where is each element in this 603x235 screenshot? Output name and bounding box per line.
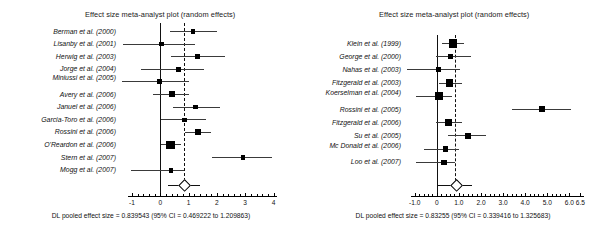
x-axis-minor-tick bbox=[441, 194, 442, 196]
study-label: Avery et al. (2006) bbox=[4, 91, 116, 99]
x-axis-tick bbox=[415, 193, 416, 196]
x-axis-tick bbox=[132, 193, 133, 196]
panel-title-left: Effect size meta-analyst plot (random ef… bbox=[85, 10, 235, 19]
x-axis-minor-tick bbox=[183, 194, 184, 196]
x-axis-tick-label: 1 bbox=[176, 199, 202, 206]
x-axis-minor-tick bbox=[507, 194, 508, 196]
pooled-effect-line bbox=[184, 23, 185, 186]
x-axis-tick-label: 0 bbox=[147, 199, 173, 206]
x-axis-tick bbox=[503, 193, 504, 196]
study-label: Su et al. (2005) bbox=[293, 132, 401, 140]
x-axis-minor-tick bbox=[446, 194, 447, 196]
x-axis-tick bbox=[580, 193, 581, 196]
x-axis-minor-tick bbox=[534, 194, 535, 196]
x-axis-minor-tick bbox=[155, 194, 156, 196]
x-axis-minor-tick bbox=[521, 194, 522, 196]
x-axis-minor-tick bbox=[172, 194, 173, 196]
study-label: Januel et al. (2006) bbox=[4, 103, 116, 111]
x-axis-tick bbox=[437, 193, 438, 196]
study-label: Rossini et al. (2006) bbox=[4, 128, 116, 136]
x-axis-tick-label: 2 bbox=[204, 199, 230, 206]
x-axis-tick bbox=[569, 193, 570, 196]
x-axis-minor-tick bbox=[490, 194, 491, 196]
effect-size-marker bbox=[169, 168, 174, 173]
study-label: Mc Donald et al. (2006) bbox=[293, 142, 401, 150]
x-axis-minor-tick bbox=[516, 194, 517, 196]
x-axis-minor-tick bbox=[268, 194, 269, 196]
x-axis-minor-tick bbox=[251, 194, 252, 196]
x-axis-minor-tick bbox=[200, 194, 201, 196]
x-axis-minor-tick bbox=[477, 194, 478, 196]
x-axis-minor-tick bbox=[454, 194, 455, 196]
x-axis-minor-tick bbox=[228, 194, 229, 196]
study-label: Stern et al. (2007) bbox=[4, 154, 116, 162]
effect-size-marker bbox=[435, 92, 443, 100]
study-label: Jorge et al. (2004) bbox=[4, 65, 116, 73]
pooled-effect-caption-right: DL pooled effect size = 0.83255 (95% CI … bbox=[305, 212, 601, 219]
x-axis-minor-tick bbox=[538, 194, 539, 196]
x-axis-minor-tick bbox=[552, 194, 553, 196]
x-axis-minor-tick bbox=[556, 194, 557, 196]
effect-size-marker bbox=[445, 119, 451, 125]
effect-size-marker bbox=[436, 67, 441, 72]
x-axis-tick-label: 4 bbox=[261, 199, 287, 206]
x-axis-minor-tick bbox=[512, 194, 513, 196]
study-label: Klein et al. (1999) bbox=[293, 40, 401, 48]
study-label: Lisanby et al. (2001) bbox=[4, 40, 116, 48]
effect-size-marker bbox=[465, 133, 471, 139]
x-axis-minor-tick bbox=[450, 194, 451, 196]
pooled-effect-caption-left: DL pooled effect size = 0.839543 (95% CI… bbox=[8, 212, 294, 219]
study-label: Koerselman et al. (2004) bbox=[293, 89, 401, 97]
x-axis-line bbox=[411, 196, 585, 197]
x-axis-tick bbox=[160, 193, 161, 196]
forest-panel-right: Effect size meta-analyst plot (random ef… bbox=[301, 0, 603, 235]
x-axis-minor-tick bbox=[194, 194, 195, 196]
forest-plot-figure: Effect size meta-analyst plot (random ef… bbox=[0, 0, 603, 235]
x-axis-minor-tick bbox=[240, 194, 241, 196]
study-label: Nahas et al. (2003) bbox=[293, 66, 401, 74]
x-axis-minor-tick bbox=[463, 194, 464, 196]
x-axis-minor-tick bbox=[262, 194, 263, 196]
effect-size-marker bbox=[195, 54, 200, 59]
study-label: Fitzgerald et al. (2006) bbox=[293, 119, 401, 127]
x-axis-minor-tick bbox=[499, 194, 500, 196]
x-axis-minor-tick bbox=[485, 194, 486, 196]
x-axis-tick bbox=[189, 193, 190, 196]
x-axis-minor-tick bbox=[432, 194, 433, 196]
x-axis-minor-tick bbox=[472, 194, 473, 196]
x-axis-minor-tick bbox=[257, 194, 258, 196]
x-axis-minor-tick bbox=[543, 194, 544, 196]
x-axis-minor-tick bbox=[223, 194, 224, 196]
effect-size-marker bbox=[166, 141, 175, 150]
study-label: Miniussi et al. (2005) bbox=[4, 74, 116, 82]
confidence-interval-line bbox=[407, 69, 460, 70]
study-label: George et al. (2000) bbox=[293, 53, 401, 61]
x-axis-tick-label: 6.5 bbox=[567, 199, 593, 206]
confidence-interval-line bbox=[416, 96, 452, 97]
x-axis-minor-tick bbox=[494, 194, 495, 196]
x-axis-minor-tick bbox=[166, 194, 167, 196]
x-axis-minor-tick bbox=[419, 194, 420, 196]
effect-size-marker bbox=[441, 160, 446, 165]
study-label: Berman et al. (2000) bbox=[4, 28, 116, 36]
x-axis-minor-tick bbox=[468, 194, 469, 196]
x-axis-minor-tick bbox=[211, 194, 212, 196]
study-label: Mogg et al. (2007) bbox=[4, 166, 116, 174]
confidence-interval-line bbox=[436, 56, 471, 57]
effect-size-marker bbox=[157, 79, 162, 84]
effect-size-marker bbox=[169, 91, 175, 97]
x-axis-tick bbox=[245, 193, 246, 196]
study-label: Fitzgerald et al. (2003) bbox=[293, 79, 401, 87]
x-axis-minor-tick bbox=[177, 194, 178, 196]
effect-size-marker bbox=[443, 146, 449, 152]
x-axis-tick bbox=[481, 193, 482, 196]
confidence-interval-line bbox=[122, 81, 189, 82]
x-axis-tick bbox=[217, 193, 218, 196]
effect-size-marker bbox=[191, 29, 195, 33]
effect-size-marker bbox=[448, 54, 453, 59]
effect-size-marker bbox=[176, 67, 180, 71]
effect-size-marker bbox=[193, 105, 198, 110]
effect-size-marker bbox=[195, 129, 201, 135]
pooled-effect-diamond bbox=[178, 179, 191, 192]
forest-panel-left: Effect size meta-analyst plot (random ef… bbox=[0, 0, 302, 235]
